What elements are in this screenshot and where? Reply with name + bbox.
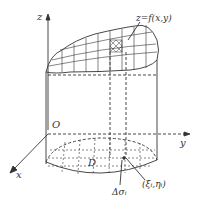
region-label: D: [88, 158, 96, 168]
x-axis: [13, 134, 48, 170]
double-integral-diagram: [0, 0, 201, 211]
surface-label: z=f(x,y): [136, 14, 172, 23]
x-axis-label: x: [16, 170, 22, 180]
z-axis-label: z: [37, 12, 42, 22]
y-axis-label: y: [180, 138, 186, 148]
origin-label: O: [52, 120, 60, 130]
area-element-label: Δσᵢ: [112, 188, 126, 197]
point-label: (ξᵢ,ηᵢ): [142, 180, 166, 189]
